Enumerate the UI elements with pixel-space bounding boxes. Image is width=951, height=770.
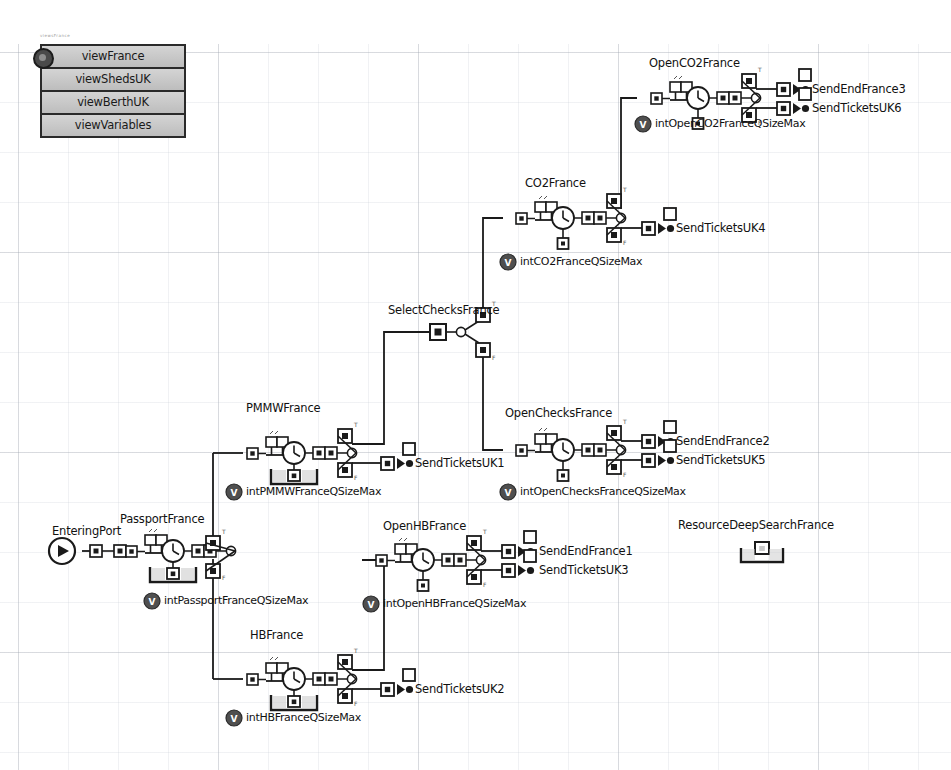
view-button-viewberthuk[interactable]: viewBerthUK (42, 92, 184, 115)
svg-text:F: F (354, 474, 358, 481)
svg-text:F: F (623, 239, 627, 246)
svg-text:T: T (221, 528, 226, 535)
view-panel[interactable]: viewFrance viewShedsUK viewBerthUK viewV… (40, 44, 186, 138)
svg-text:F: F (623, 471, 627, 478)
svg-text:T: T (353, 647, 358, 654)
label-co2france: CO2France (525, 176, 586, 190)
label-var-openchecksfrance: intOpenChecksFranceQSizeMax (520, 485, 686, 498)
label-selectchecksfrance: SelectChecksFrance (388, 303, 499, 317)
label-sendticketsuk6: SendTicketsUK6 (812, 101, 901, 115)
start-node-enteringport[interactable] (49, 538, 75, 564)
variable-v-icon-openchecks (500, 484, 516, 500)
svg-text:F: F (483, 581, 487, 588)
start-outlink (90, 545, 126, 557)
label-sendticketsuk2: SendTicketsUK2 (415, 682, 504, 696)
label-sendendfrance3: SendEndFrance3 (812, 82, 906, 96)
variable-v-icon-openhb (363, 596, 379, 612)
branch-true-openchecksfrance[interactable] (607, 426, 621, 440)
small-resource-icon (558, 461, 569, 481)
resource-bracket-icon (271, 690, 317, 710)
view-button-viewshedsuk[interactable]: viewShedsUK (42, 69, 184, 92)
window-badge-icon[interactable] (33, 48, 54, 69)
view-button-viewfrance[interactable]: viewFrance (42, 46, 184, 69)
branch-true-openco2france[interactable] (742, 74, 756, 88)
branch-true-openhbfrance[interactable] (467, 536, 481, 550)
variable-v-icon-passport (144, 593, 160, 609)
router-selectchecksfrance[interactable] (430, 321, 479, 343)
terminator-sendticketsuk2[interactable] (381, 669, 415, 696)
branch-markers: TF TF TF TF TF TF TF TF (221, 66, 762, 707)
small-resource-icon (558, 229, 569, 249)
label-openhbfrance: OpenHBFrance (383, 519, 466, 533)
svg-text:F: F (222, 574, 226, 581)
label-sendendfrance2: SendEndFrance2 (676, 434, 770, 448)
variable-v-icon-co2 (500, 254, 516, 270)
variable-v-icon-hb (226, 710, 242, 726)
branch-true-co2france[interactable] (607, 194, 621, 208)
variable-v-icon-openco2 (635, 116, 651, 132)
svg-text:T: T (622, 418, 627, 425)
label-enteringport: EnteringPort (52, 524, 121, 538)
terminator-sendticketsuk1[interactable] (381, 443, 415, 470)
label-sendticketsuk4: SendTicketsUK4 (676, 221, 765, 235)
terminator-sendticketsuk4[interactable] (642, 208, 676, 235)
label-var-openhbfrance: intOpenHBFranceQSizeMax (383, 597, 526, 610)
resource-bracket-icon (271, 464, 317, 484)
label-sendticketsuk5: SendTicketsUK5 (676, 453, 765, 467)
label-resourcedeepsearchfrance: ResourceDeepSearchFrance (678, 518, 834, 532)
svg-text:T: T (622, 186, 627, 193)
label-sendendfrance1: SendEndFrance1 (539, 544, 633, 558)
svg-text:T: T (353, 421, 358, 428)
label-var-pmmwfrance: intPMMWFranceQSizeMax (246, 485, 381, 498)
svg-text:F: F (492, 354, 496, 361)
branch-false-pmmwfrance[interactable] (338, 463, 352, 477)
label-openco2france: OpenCO2France (649, 56, 740, 70)
branch-false-selectchecks[interactable] (476, 343, 490, 357)
label-passportfrance: PassportFrance (120, 512, 204, 526)
small-resource-icon (418, 571, 429, 591)
label-var-hbfrance: intHBFranceQSizeMax (246, 711, 361, 724)
svg-text:T: T (757, 66, 762, 73)
branch-false-openchecksfrance[interactable] (607, 460, 621, 474)
label-sendticketsuk1: SendTicketsUK1 (415, 456, 504, 470)
label-var-openco2france: intOpenCO2FranceQSizeMax (655, 117, 805, 130)
branch-true-pmmwfrance[interactable] (338, 429, 352, 443)
svg-text:T: T (482, 528, 487, 535)
view-panel-caption: viewsFrance (40, 33, 70, 38)
resource-deepsearchfrance[interactable] (741, 542, 783, 562)
label-pmmwfrance: PMMWFrance (246, 401, 320, 415)
variable-v-icon-pmmw (226, 484, 242, 500)
label-openchecksfrance: OpenChecksFrance (505, 406, 612, 420)
branch-false-hbfrance[interactable] (338, 689, 352, 703)
label-var-co2france: intCO2FranceQSizeMax (520, 255, 642, 268)
label-var-passportfrance: intPassportFranceQSizeMax (164, 594, 308, 607)
branch-true-hbfrance[interactable] (338, 655, 352, 669)
label-sendticketsuk3: SendTicketsUK3 (539, 563, 628, 577)
branch-false-openhbfrance[interactable] (467, 570, 481, 584)
resource-bracket-icon (150, 562, 196, 582)
label-hbfrance: HBFrance (250, 628, 303, 642)
branch-false-co2france[interactable] (607, 228, 621, 242)
view-button-viewvariables[interactable]: viewVariables (42, 115, 184, 136)
svg-text:F: F (354, 700, 358, 707)
